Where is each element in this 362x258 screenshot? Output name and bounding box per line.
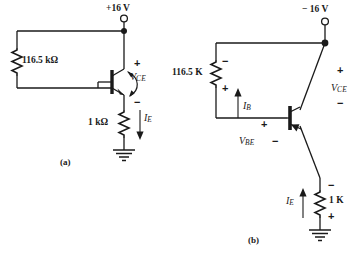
transistor-a-collector-lead (112, 69, 124, 76)
resistor-base-a-label: 116.5 kΩ (22, 56, 58, 66)
ground-b-icon (309, 230, 331, 241)
vbe-label-b-sub: BE (245, 138, 254, 147)
resistor-emitter-a-label: 1 kΩ (88, 118, 108, 128)
supply-terminal-a-icon (121, 15, 128, 22)
vce-minus-b: − (337, 98, 343, 109)
resistor-emitter-b-symbol (315, 190, 325, 218)
vbe-label-b: VBE (239, 136, 254, 147)
ie-label-b-sub: E (289, 198, 294, 207)
ie-label-a: IE (144, 113, 152, 124)
resistor-base-b-label: 116.5 K (172, 68, 203, 78)
vce-label-b: VCE (331, 83, 347, 94)
ib-arrow-b-head (234, 88, 241, 97)
vce-plus-b: + (337, 65, 343, 76)
vce-label-b-sub: CE (337, 85, 347, 94)
ib-label-b-sub: B (246, 103, 251, 112)
vbe-plus-b: + (261, 119, 267, 130)
resistor-base-b-symbol (211, 60, 221, 88)
supply-label-b: − 16 V (302, 5, 328, 15)
junction-dot-a-icon (121, 28, 127, 34)
vce-plus-a: + (134, 58, 140, 69)
re-plus-b: + (328, 211, 334, 222)
caption-a: (a) (60, 158, 71, 167)
vce-label-a-sub: CE (136, 74, 146, 83)
emitter-wire-b (300, 126, 320, 178)
supply-label-a: +16 V (106, 4, 130, 14)
vbe-minus-b: − (272, 136, 278, 147)
resistor-emitter-a-symbol (119, 110, 129, 138)
supply-terminal-b-icon (322, 18, 329, 25)
rb-plus-b: + (222, 83, 228, 94)
ie-label-b: IE (286, 196, 294, 207)
re-minus-b: − (328, 180, 334, 191)
resistor-emitter-b-label: 1 K (329, 196, 344, 206)
ground-a-icon (113, 150, 135, 161)
circuit-a-graphics (12, 15, 144, 160)
rb-minus-b: − (222, 56, 228, 67)
collector-wire-b (300, 43, 325, 110)
circuit-b-graphics (211, 18, 331, 240)
vce-label-a: VCE (130, 72, 146, 83)
circuit-figure: +16 V 116.5 kΩ 1 kΩ + − VCE IE (a) − 16 … (0, 0, 362, 258)
caption-b: (b) (248, 236, 259, 245)
junction-dot-b-icon (322, 40, 329, 47)
vce-minus-a: − (134, 97, 140, 108)
ie-arrow-a-head (136, 132, 143, 141)
circuit-schematic-canvas (0, 0, 362, 258)
ie-label-a-sub: E (147, 115, 152, 124)
ib-label-b: IB (243, 101, 251, 112)
ie-arrow-b-head (299, 188, 306, 197)
resistor-base-a-symbol (12, 48, 22, 76)
